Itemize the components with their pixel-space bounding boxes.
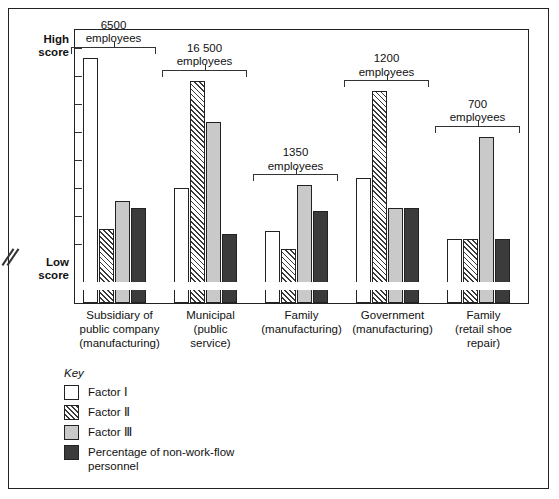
bar-break-band [130, 282, 147, 290]
bar-group [75, 28, 166, 303]
bar[interactable] [115, 201, 130, 303]
legend: Key Factor ⅠFactor ⅡFactor ⅢPercentage o… [64, 367, 384, 478]
bar[interactable] [190, 81, 205, 303]
bar[interactable] [99, 229, 114, 303]
legend-swatch-icon [64, 385, 79, 400]
bar[interactable] [447, 239, 462, 303]
legend-label: Percentage of non-work-flow personnel [88, 445, 234, 473]
annotation-bracket [253, 174, 338, 183]
bar-break-band [312, 282, 329, 290]
employee-count-annotation: 700 employees [435, 98, 520, 135]
legend-item[interactable]: Factor Ⅲ [64, 425, 384, 440]
bar-break-band [221, 282, 238, 290]
annotation-bracket [344, 80, 429, 89]
employee-count-annotation: 1200 employees [344, 52, 429, 89]
bar-break-band [114, 282, 131, 290]
bar[interactable] [372, 91, 387, 303]
bar-break-band [403, 282, 420, 290]
bar[interactable] [265, 231, 280, 303]
bar-break-band [264, 282, 281, 290]
bar[interactable] [463, 239, 478, 303]
bar-break-band [189, 282, 206, 290]
bar-break-band [173, 282, 190, 290]
bar-break-band [82, 282, 99, 290]
legend-swatch-icon [64, 425, 79, 440]
annotation-bracket [435, 126, 520, 135]
bar-break-band [280, 282, 297, 290]
legend-swatch-icon [64, 405, 79, 420]
bar-break-band [296, 282, 313, 290]
figure-frame: High score Low score 6500 employees16 50… [8, 8, 549, 489]
legend-label: Factor Ⅰ [88, 385, 128, 400]
bar[interactable] [131, 208, 146, 303]
legend-swatch-icon [64, 445, 79, 460]
bar-break-band [387, 282, 404, 290]
legend-label: Factor Ⅱ [88, 405, 130, 420]
legend-item[interactable]: Percentage of non-work-flow personnel [64, 445, 384, 473]
bar-break-band [371, 282, 388, 290]
y-axis-break-icon [3, 247, 19, 269]
bar[interactable] [83, 58, 98, 303]
bar[interactable] [297, 185, 312, 303]
annotation-bracket [71, 47, 156, 56]
y-axis-high-label: High score [17, 33, 69, 59]
legend-title: Key [64, 367, 384, 379]
legend-item[interactable]: Factor Ⅱ [64, 405, 384, 420]
bar[interactable] [206, 122, 221, 303]
bar[interactable] [388, 208, 403, 303]
bar[interactable] [356, 178, 371, 303]
y-axis-low-label: Low score [17, 256, 69, 282]
bar-break-band [462, 282, 479, 290]
bar[interactable] [222, 234, 237, 303]
bar-break-band [446, 282, 463, 290]
bar-break-band [98, 282, 115, 290]
bar[interactable] [281, 249, 296, 303]
bar[interactable] [404, 208, 419, 303]
bar[interactable] [174, 188, 189, 303]
bar[interactable] [495, 239, 510, 303]
bar[interactable] [479, 137, 494, 303]
category-label: Family (retail shoe repair) [428, 308, 539, 350]
annotation-bracket [162, 70, 247, 79]
employee-count-annotation: 6500 employees [71, 19, 156, 56]
bar-break-band [205, 282, 222, 290]
bar[interactable] [313, 211, 328, 303]
bar-break-band [478, 282, 495, 290]
bar-group [439, 28, 530, 303]
bar-break-band [494, 282, 511, 290]
employee-count-annotation: 1350 employees [253, 146, 338, 183]
bar-break-band [355, 282, 372, 290]
employee-count-annotation: 16 500 employees [162, 42, 247, 79]
legend-rows: Factor ⅠFactor ⅡFactor ⅢPercentage of no… [64, 385, 384, 473]
legend-label: Factor Ⅲ [88, 425, 132, 440]
legend-item[interactable]: Factor Ⅰ [64, 385, 384, 400]
